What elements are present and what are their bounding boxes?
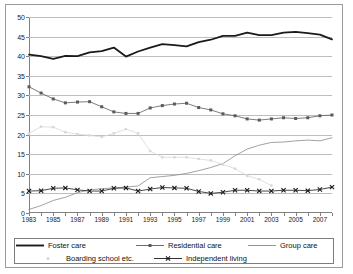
legend-item-group-care[interactable]: Group care [247,241,318,250]
series-marker [197,158,200,161]
x-axis-tick-label: 1995 [167,217,181,224]
series-line [29,138,332,210]
x-axis-tick-mark [90,213,91,216]
series-marker [246,174,249,177]
x-axis-tick-label: 1989 [94,217,108,224]
series-line [29,87,332,120]
legend-row: Boarding school etc.Independent living [15,252,333,265]
y-axis-tick-label: 50 [17,14,25,21]
series-marker [221,112,224,115]
x-axis-tick-label: 2005 [288,217,302,224]
x-axis-tick-mark [211,213,212,216]
y-axis-tick-label: 25 [17,112,25,119]
series-marker [100,105,103,108]
series-marker [28,132,31,135]
series-marker [222,163,225,166]
series-marker [40,125,43,128]
x-axis-tick-label: 2001 [240,217,254,224]
series-marker [28,85,31,88]
series-marker [64,131,67,134]
series-marker [246,117,249,120]
series-marker [161,104,164,107]
legend-label: Boarding school etc. [66,254,134,263]
series-marker [294,117,297,120]
series-marker [270,117,273,120]
plot-wrapper: 05101520253035404550 1983198519871989199… [29,17,332,213]
x-axis-tick-mark [138,213,139,216]
series-marker [185,102,188,105]
x-axis-tick-label: 1987 [70,217,84,224]
legend-swatch-icon [247,241,277,250]
legend-row: Foster careResidential careGroup care [15,239,333,252]
series-marker [88,100,91,103]
series-marker [306,116,309,119]
series-marker [112,110,115,113]
legend-item-residential-care[interactable]: Residential care [135,241,222,250]
series-line [29,187,332,193]
legend-item-boarding-school-etc[interactable]: Boarding school etc. [33,254,134,263]
x-axis-tick-mark [114,213,115,216]
series-marker [234,167,237,170]
y-axis-tick-label: 10 [17,170,25,177]
series-marker [149,106,152,109]
x-axis-tick-label: 2007 [313,217,327,224]
series-marker [173,103,176,106]
series-marker [124,112,127,115]
series-marker [52,126,55,129]
x-axis-tick-mark [65,213,66,216]
legend-swatch-icon [135,241,165,250]
legend-label: Independent living [186,254,247,263]
series-lines [29,17,332,213]
y-axis-tick-label: 5 [21,190,25,197]
series-marker [270,184,273,187]
x-axis-tick-label: 1985 [46,217,60,224]
x-axis-tick-mark [41,213,42,216]
y-axis-tick-label: 35 [17,72,25,79]
y-axis-tick-label: 45 [17,33,25,40]
series-marker [318,114,321,117]
y-axis-tick-label: 15 [17,151,25,158]
series-marker [137,132,140,135]
chart-legend: Foster careResidential careGroup careBoa… [14,238,334,264]
series-marker [258,119,261,122]
y-axis-tick-label: 40 [17,53,25,60]
x-axis-tick-label: 1983 [22,217,36,224]
legend-swatch-icon [15,241,45,250]
legend-item-independent-living[interactable]: Independent living [153,254,247,263]
x-axis-tick-mark [259,213,260,216]
legend-swatch-icon [153,254,183,263]
series-marker [100,136,103,139]
series-marker [137,112,140,115]
series-marker [282,116,285,119]
y-axis-tick-label: 20 [17,131,25,138]
series-marker [88,134,91,137]
series-marker [331,114,334,117]
x-axis-tick-mark [187,213,188,216]
x-axis-tick-label: 1999 [216,217,230,224]
legend-label: Foster care [48,241,86,250]
x-axis-tick-label: 2003 [264,217,278,224]
series-marker [149,150,152,153]
series-marker [197,106,200,109]
series-marker [64,101,67,104]
series-marker [258,178,261,181]
series-marker [209,108,212,111]
series-marker [234,114,237,117]
series-marker [40,92,43,95]
series-marker [209,159,212,162]
x-axis-tick-mark [332,213,333,216]
legend-item-foster-care[interactable]: Foster care [15,241,86,250]
x-axis-tick-label: 1997 [191,217,205,224]
x-axis-tick-mark [162,213,163,216]
series-marker [173,156,176,159]
legend-label: Residential care [168,241,222,250]
series-line [29,32,332,59]
series-marker [125,128,128,131]
x-axis-tick-label: 1991 [119,217,133,224]
series-marker [76,101,79,104]
chart-figure: 05101520253035404550 1983198519871989199… [0,0,353,274]
x-axis-tick-mark [284,213,285,216]
series-marker [161,156,164,159]
series-marker [112,132,115,135]
series-marker [185,156,188,159]
